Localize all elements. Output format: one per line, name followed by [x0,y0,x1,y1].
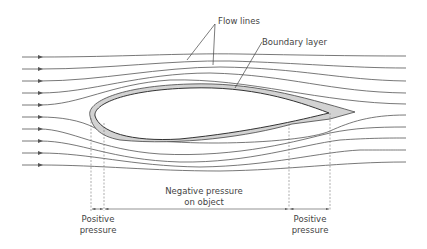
flow-arrow-icons [38,55,43,167]
flow-lines-label: Flow lines [218,16,260,26]
positive-pressure-right-line1: Positive [294,214,327,224]
airfoil-diagram: Flow lines Boundary layer Negative press… [0,0,427,249]
airfoil [90,84,355,142]
negative-pressure-label-line1: Negative pressure [165,186,243,196]
boundary-layer-label: Boundary layer [262,37,327,47]
positive-pressure-left-line1: Positive [82,214,115,224]
positive-pressure-left-line2: pressure [80,225,117,235]
negative-pressure-label-line2: on object [184,197,224,207]
leader-lines [187,24,262,88]
positive-pressure-right-line2: pressure [292,225,329,235]
